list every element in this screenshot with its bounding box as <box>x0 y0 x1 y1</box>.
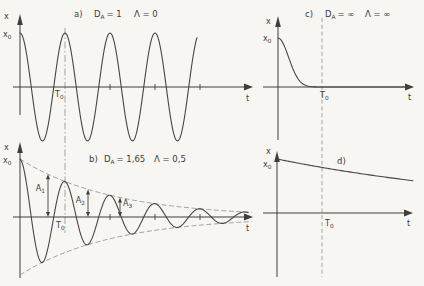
y-axis-arrow-d <box>274 151 280 162</box>
panel-tag-c: c) <box>305 9 313 19</box>
lambda-param-a: Λ = 0 <box>134 9 158 19</box>
y-axis-label-a: x <box>4 12 9 21</box>
amplitude-arrowhead <box>118 198 122 203</box>
x0-label-d: x0 <box>263 160 272 170</box>
upper-envelope-b <box>20 159 252 212</box>
figure-page: x x0 T0 t a) DA= 1 Λ = 0 x x0 T0 t b) DA… <box>0 0 424 286</box>
T0-sub-a: 0 <box>60 94 64 100</box>
d-sub-b: A <box>111 159 115 165</box>
y-axis-label-c: x <box>266 17 271 26</box>
d-val-b: = 1,65 <box>117 154 146 164</box>
lambda-param-b: Λ = 0,5 <box>154 154 186 164</box>
t-axis-arrow-a <box>244 84 253 91</box>
d-val-c: = ∞ <box>338 9 355 19</box>
lower-envelope-b <box>20 222 252 275</box>
damping-param-c: DA= ∞ <box>325 9 354 20</box>
y-axis-arrow-c <box>275 16 281 27</box>
y-axis-label-d: x <box>266 147 271 156</box>
T0-sub-b: 0 <box>61 225 65 231</box>
amp3-sub: 3 <box>128 203 132 209</box>
y-axis-label-b: x <box>4 143 9 152</box>
t-label-c: t <box>408 93 411 102</box>
x0-sub-a: 0 <box>8 34 12 40</box>
T0-label-d: T0 <box>324 219 334 229</box>
y-axis-arrow-b <box>17 142 23 153</box>
panel-a: x x0 T0 t a) DA= 1 Λ = 0 <box>3 9 253 141</box>
d-sub-a: A <box>101 14 105 20</box>
amplitude-arrowhead <box>86 212 90 217</box>
panel-c: x x0 T0 t c) DA= ∞ Λ = ∞ <box>263 9 414 140</box>
amplitude-label-1: A1 <box>36 184 45 194</box>
x0-sub-c: 0 <box>268 38 272 44</box>
oscillation-figure: x x0 T0 t a) DA= 1 Λ = 0 x x0 T0 t b) DA… <box>0 0 424 286</box>
panel-d: x x0 T0 t d) <box>263 147 413 277</box>
damping-param-a: DA= 1 <box>94 9 122 20</box>
x0-label-a: x0 <box>3 30 12 40</box>
x0-label-b: x0 <box>3 156 12 166</box>
damping-param-b: DA= 1,65 <box>104 154 145 165</box>
T0-label-b: T0 <box>55 221 65 231</box>
panel-tag-a: a) <box>74 9 83 19</box>
d-val-a: = 1 <box>107 9 122 19</box>
d-sub-c: A <box>332 14 336 20</box>
amplitude-label-3: A3 <box>123 199 132 209</box>
amplitude-label-2: A2 <box>76 196 85 206</box>
amp1-sub: 1 <box>41 188 45 194</box>
t-label-d: t <box>407 219 410 228</box>
panel-tag-d: d) <box>337 156 346 166</box>
x0-sub-b: 0 <box>8 160 12 166</box>
t-axis-arrow-b <box>244 214 253 221</box>
T0-label-a: T0 <box>54 90 64 100</box>
damped-sine-curve-b <box>20 159 248 263</box>
panel-b: x x0 T0 t b) DA= 1,65 Λ = 0,5 A1 A2 A3 <box>3 142 253 278</box>
x0-label-c: x0 <box>263 34 272 44</box>
t-axis-arrow-d <box>404 210 413 217</box>
T0-sub-d: 0 <box>330 223 334 229</box>
x0-sub-d: 0 <box>268 164 272 170</box>
decay-curve-c <box>278 38 410 87</box>
lambda-param-c: Λ = ∞ <box>365 9 390 19</box>
amp2-sub: 2 <box>81 200 85 206</box>
t-label-b: t <box>246 224 249 233</box>
panel-tag-b: b) <box>89 154 98 164</box>
t-label-a: t <box>246 94 249 103</box>
y-axis-arrow-a <box>17 14 23 25</box>
T0-sub-c: 0 <box>325 95 329 101</box>
T0-label-c: T0 <box>319 91 329 101</box>
amplitude-arrowhead <box>46 212 50 217</box>
